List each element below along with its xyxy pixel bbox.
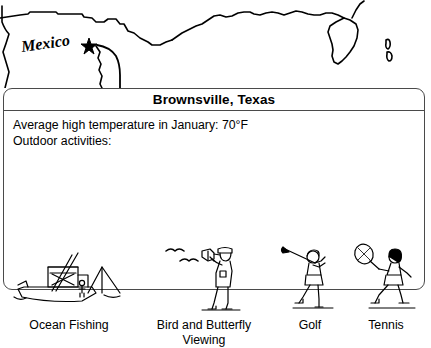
activity-ocean-fishing: Ocean Fishing [4,241,134,333]
fishing-boat-icon [10,241,128,313]
tennis-player-icon [349,241,423,313]
activity-bird-butterfly-viewing: Bird and Butterfly Viewing [134,241,274,348]
island-2 [387,52,392,61]
island-1 [386,39,391,49]
activity-label: Golf [299,318,322,333]
mexico-east-coast [96,46,102,88]
brownsville-info-card: Brownsville, Texas Average high temperat… [3,88,425,290]
map-illustration: Mexico [0,0,431,88]
gulf-coastline [172,11,344,40]
activity-label: Tennis [368,318,404,333]
birdwatcher-icon [144,241,264,313]
gulf-of-mexico-map: Mexico [0,0,431,88]
star-marker [81,38,97,54]
activities-heading: Outdoor activities: [13,133,415,149]
golfer-icon [277,241,343,313]
map-region-label: Mexico [19,31,71,55]
activity-label: Bird and Butterfly Viewing [157,318,251,348]
card-title: Brownsville, Texas [4,89,424,111]
temperature-line: Average high temperature in January: 70°… [13,117,415,133]
activity-label: Ocean Fishing [29,318,108,333]
bird-1 [166,249,184,251]
florida-peninsula [328,18,358,64]
activities-row: Ocean Fishing [4,241,426,348]
activity-tennis: Tennis [346,241,426,333]
activity-golf: Golf [274,241,346,333]
bird-2 [180,259,198,261]
card-body: Average high temperature in January: 70°… [4,111,424,149]
atlantic-coast [352,1,364,18]
